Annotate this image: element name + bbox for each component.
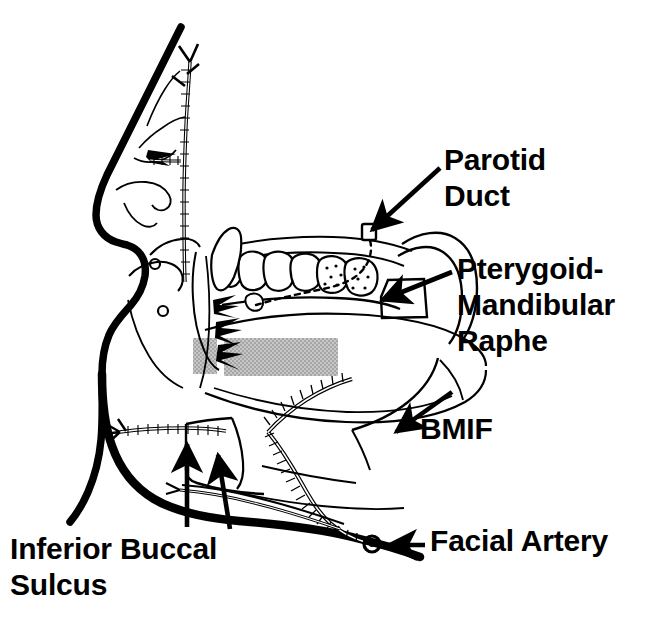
face-profile-group xyxy=(70,27,486,557)
mental-foramen xyxy=(158,306,168,316)
label-raphe-line-3: Raphe xyxy=(457,324,548,357)
retromolar-contour xyxy=(352,430,370,470)
angular-artery-vessel xyxy=(172,44,199,282)
label-sulcus-line-1: Inferior Buccal xyxy=(10,532,217,565)
label-parotid-duct-line-2: Duct xyxy=(444,179,510,212)
infraorbital-contour xyxy=(129,262,183,291)
bmif-shaded-band xyxy=(224,338,338,376)
zygomatic-contour xyxy=(150,239,200,255)
label-raphe-line-1: Pterygoid- xyxy=(457,252,603,285)
label-parotid-duct: ParotidDuct xyxy=(444,142,546,214)
tooth-upper-6 xyxy=(344,258,377,295)
label-sulcus-line-2: Sulcus xyxy=(10,568,107,601)
facial-artery-ascending-limb xyxy=(264,373,352,432)
label-raphe-line-2: Mandibular xyxy=(457,288,615,321)
tooth-lower-1 xyxy=(246,294,264,311)
label-parotid-duct-line-1: Parotid xyxy=(444,143,546,176)
label-bmif-line-1: BMIF xyxy=(420,412,493,445)
inferior-labial-artery-vessel xyxy=(104,419,226,443)
hard-palate-line xyxy=(214,237,412,251)
facial-profile-outline xyxy=(70,27,181,522)
cheek-soft-tissue-line xyxy=(128,300,183,388)
mandibular-symphysis-line xyxy=(232,418,243,489)
infraorbital-foramen xyxy=(150,259,160,269)
nostril-contour xyxy=(116,182,171,211)
mental-region-outline xyxy=(186,418,232,424)
raphe-inner-curve xyxy=(398,247,462,344)
label-facial-artery: Facial Artery xyxy=(430,523,608,559)
lower-vestibule-curve xyxy=(262,466,356,483)
arrow-parotid-duct xyxy=(372,168,440,230)
nasal-cartilage-line xyxy=(139,117,185,148)
arrow-pterygoid-raphe xyxy=(382,272,452,300)
label-pterygoid-mandibular-raphe: Pterygoid-MandibularRaphe xyxy=(457,251,615,359)
label-inferior-buccal-sulcus: Inferior BuccalSulcus xyxy=(10,531,217,603)
mandibular-teeth-group xyxy=(246,294,264,311)
nasal-spine-wedge xyxy=(146,150,176,166)
label-facial-artery-line-1: Facial Artery xyxy=(430,524,608,557)
label-bmif: BMIF xyxy=(420,411,493,447)
figure-canvas: ParotidDuct Pterygoid-MandibularRaphe BM… xyxy=(0,0,653,629)
